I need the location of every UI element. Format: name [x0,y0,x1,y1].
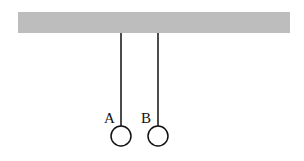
bob-a [111,126,131,146]
bob-b [148,126,168,146]
label-b: B [141,110,151,126]
label-a: A [104,110,115,126]
ceiling [18,12,290,33]
pendulum-diagram: A B [0,0,304,161]
